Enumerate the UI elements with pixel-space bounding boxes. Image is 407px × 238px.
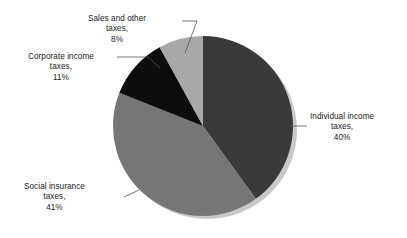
- leader-line-social-insurance-taxes: [124, 190, 139, 197]
- pie-label-social-insurance-taxes: Social insurance taxes, 41%: [24, 182, 85, 213]
- pie-chart: Individual income taxes, 40% Social insu…: [0, 0, 407, 238]
- pie-label-social-insurance-taxes-name: Social insurance: [24, 182, 85, 192]
- pie-label-corporate-income-taxes-name2: taxes,: [28, 62, 94, 72]
- pie-label-corporate-income-taxes-name: Corporate income: [28, 52, 94, 62]
- pie-label-sales-and-other-taxes-percent: 8%: [88, 35, 146, 45]
- pie-label-individual-income-taxes-name: Individual income: [310, 112, 374, 122]
- pie-label-individual-income-taxes-percent: 40%: [310, 133, 374, 143]
- pie-label-social-insurance-taxes-name2: taxes,: [24, 192, 85, 202]
- pie-label-sales-and-other-taxes-name2: taxes,: [88, 24, 146, 34]
- pie-label-social-insurance-taxes-percent: 41%: [24, 203, 85, 213]
- pie-label-corporate-income-taxes-percent: 11%: [28, 73, 94, 83]
- pie-label-corporate-income-taxes: Corporate income taxes, 11%: [28, 52, 94, 83]
- pie-label-individual-income-taxes: Individual income taxes, 40%: [310, 112, 374, 143]
- pie-label-individual-income-taxes-name2: taxes,: [310, 122, 374, 132]
- pie-label-sales-and-other-taxes-name: Sales and other: [88, 14, 146, 24]
- pie-label-sales-and-other-taxes: Sales and other taxes, 8%: [88, 14, 146, 45]
